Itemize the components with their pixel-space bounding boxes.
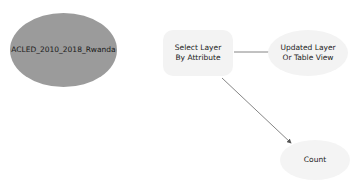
edge-tool-to-count[interactable] (222, 78, 291, 143)
output-node-count[interactable]: Count (280, 140, 350, 180)
input-node-acled[interactable]: ACLED_2010_2018_Rwanda (10, 13, 117, 87)
node-label: Select Layer By Attribute (170, 43, 226, 63)
output-node-updated-layer[interactable]: Updated Layer Or Table View (268, 30, 348, 76)
node-label: Count (304, 155, 326, 165)
node-label: ACLED_2010_2018_Rwanda (11, 45, 115, 55)
node-label: Updated Layer Or Table View (276, 43, 340, 63)
tool-node-select-layer-by-attribute[interactable]: Select Layer By Attribute (163, 30, 233, 76)
